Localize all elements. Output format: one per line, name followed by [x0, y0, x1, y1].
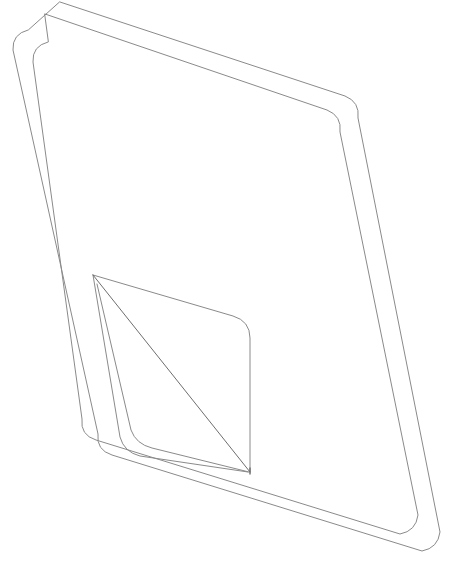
technical-line-drawing	[0, 0, 467, 582]
drawing-background	[0, 0, 467, 582]
